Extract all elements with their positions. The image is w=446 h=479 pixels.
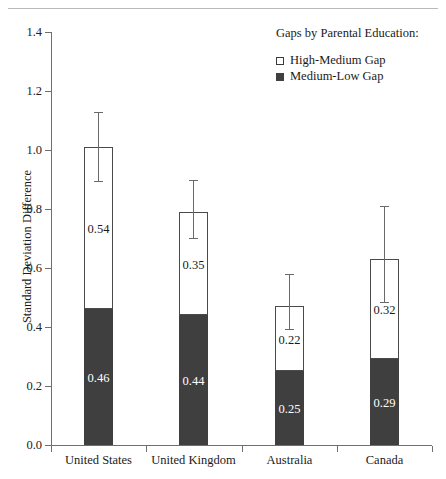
error-bar-cap-upper xyxy=(94,112,103,113)
error-bar-cap-lower xyxy=(285,329,294,330)
error-bar xyxy=(84,112,113,183)
error-bar-stem xyxy=(193,180,194,239)
x-axis-category-label: United Kingdom xyxy=(146,453,241,468)
title-rule-divider xyxy=(8,8,438,9)
error-bar-stem xyxy=(289,274,290,330)
y-tick-mark xyxy=(45,32,51,33)
x-tick-mark xyxy=(51,446,52,452)
x-axis-category-label: United States xyxy=(51,453,146,468)
y-tick-label: 1.4 xyxy=(0,26,42,39)
x-tick-mark xyxy=(337,446,338,452)
x-tick-mark xyxy=(242,446,243,452)
x-axis-category-label: Australia xyxy=(242,453,337,468)
bar-segment-medium-low[interactable]: 0.29 xyxy=(370,359,399,445)
y-tick-label: 0.2 xyxy=(0,380,42,393)
open-square-icon xyxy=(276,57,284,65)
x-axis-category-label: Canada xyxy=(337,453,432,468)
y-tick-mark xyxy=(45,386,51,387)
bar-segment-medium-low[interactable]: 0.25 xyxy=(275,371,304,445)
y-tick-label: 0.0 xyxy=(0,439,42,452)
error-bar-cap-lower xyxy=(380,302,389,303)
y-tick-label: 0.4 xyxy=(0,321,42,334)
y-tick-mark xyxy=(45,327,51,328)
y-tick-mark xyxy=(45,209,51,210)
y-tick-label: 0.6 xyxy=(0,262,42,275)
y-tick-mark xyxy=(45,268,51,269)
bar-value-label-high-medium: 0.35 xyxy=(180,259,207,272)
filled-square-icon xyxy=(276,73,284,81)
y-axis-line xyxy=(51,32,52,446)
bar-value-label-high-medium: 0.32 xyxy=(371,304,398,317)
legend-item[interactable]: High-Medium Gap xyxy=(276,53,419,68)
bar-value-label-high-medium: 0.22 xyxy=(276,334,303,347)
clipped-title-remnant xyxy=(60,0,390,2)
legend-title: Gaps by Parental Education: xyxy=(276,26,419,41)
bar-value-label-medium-low: 0.29 xyxy=(371,397,398,410)
error-bar-cap-upper xyxy=(189,180,198,181)
x-tick-mark xyxy=(146,446,147,452)
legend-item-label: High-Medium Gap xyxy=(290,53,385,68)
error-bar-stem xyxy=(98,112,99,183)
bar-group[interactable]: 0.350.44 xyxy=(179,212,208,445)
bar-value-label-medium-low: 0.44 xyxy=(180,375,207,388)
bar-segment-medium-low[interactable]: 0.44 xyxy=(179,315,208,445)
error-bar-stem xyxy=(384,206,385,303)
legend-entries: High-Medium GapMedium-Low Gap xyxy=(276,53,419,84)
x-tick-mark xyxy=(432,446,433,452)
y-tick-label: 0.8 xyxy=(0,203,42,216)
bar-value-label-medium-low: 0.25 xyxy=(276,403,303,416)
bar-group[interactable]: 0.540.46 xyxy=(84,147,113,445)
legend-item[interactable]: Medium-Low Gap xyxy=(276,69,419,84)
y-tick-mark xyxy=(45,150,51,151)
bar-value-label-high-medium: 0.54 xyxy=(85,223,112,236)
y-tick-mark xyxy=(45,91,51,92)
chart-legend: Gaps by Parental Education: High-Medium … xyxy=(276,26,419,85)
error-bar xyxy=(275,274,304,330)
error-bar xyxy=(370,206,399,303)
error-bar-cap-upper xyxy=(285,274,294,275)
y-tick-label: 1.2 xyxy=(0,85,42,98)
error-bar xyxy=(179,180,208,239)
legend-item-label: Medium-Low Gap xyxy=(290,69,383,84)
error-bar-cap-lower xyxy=(94,181,103,182)
bar-segment-medium-low[interactable]: 0.46 xyxy=(84,309,113,445)
error-bar-cap-lower xyxy=(189,238,198,239)
error-bar-cap-upper xyxy=(380,206,389,207)
y-tick-label: 1.0 xyxy=(0,144,42,157)
bar-value-label-medium-low: 0.46 xyxy=(85,372,112,385)
chart-figure: Standard Deviation Difference 0.00.20.40… xyxy=(0,0,446,479)
